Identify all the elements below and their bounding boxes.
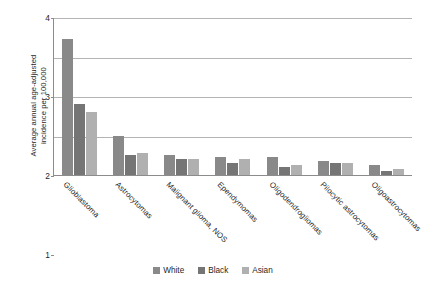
bar (137, 153, 148, 175)
bar (381, 171, 392, 175)
bar (215, 157, 226, 175)
legend-label: White (163, 266, 184, 275)
bar-group (105, 18, 156, 175)
incidence-bar-chart: Average annual age-adjusted incidence pe… (0, 0, 426, 295)
bar-group (361, 18, 412, 175)
bar (279, 167, 290, 175)
y-tick-label: 2 (45, 171, 50, 181)
y-tick-label: 1 (45, 250, 50, 260)
bar (164, 155, 175, 175)
bar-group (310, 18, 361, 175)
bar-group (54, 18, 105, 175)
legend-label: Black (208, 266, 228, 275)
bar (239, 159, 250, 175)
legend-item: Black (198, 266, 228, 275)
bar (318, 161, 329, 175)
legend-swatch-icon (153, 267, 160, 274)
bar (74, 104, 85, 175)
y-axis-title: Average annual age-adjusted incidence pe… (29, 21, 48, 191)
legend-item: White (153, 266, 184, 275)
bar (188, 159, 199, 175)
bar (330, 163, 341, 175)
bar (62, 39, 73, 175)
bar (291, 165, 302, 175)
bar (176, 159, 187, 175)
category-label: Astrocytomas (113, 180, 154, 221)
bar (125, 155, 136, 175)
legend-item: Asian (242, 266, 272, 275)
bar (393, 169, 404, 175)
bar (86, 112, 97, 175)
bar-groups (54, 18, 412, 175)
category-label: Glioblastoma (62, 180, 101, 219)
y-tick-label: 3 (45, 92, 50, 102)
bar-group (207, 18, 258, 175)
bar (369, 165, 380, 175)
legend-swatch-icon (198, 267, 205, 274)
bar (267, 157, 278, 175)
bar (113, 136, 124, 176)
y-tick-label: 4 (45, 13, 50, 23)
bar-group (259, 18, 310, 175)
bar (227, 163, 238, 175)
category-label: Ependymomas (216, 180, 260, 224)
category-axis-labels: GlioblastomaAstrocytomasMalignant glioma… (53, 176, 412, 266)
bar-group (156, 18, 207, 175)
legend-label: Asian (252, 266, 272, 275)
category-label: Oligoastrocytomas (370, 180, 423, 233)
chart-legend: WhiteBlackAsian (0, 266, 426, 275)
category-label: Pilocytic astrocytomas (318, 180, 380, 242)
legend-swatch-icon (242, 267, 249, 274)
plot-area: 01234 (53, 18, 412, 176)
bar (342, 163, 353, 175)
category-label: Oligodendrogliomas (267, 180, 324, 237)
